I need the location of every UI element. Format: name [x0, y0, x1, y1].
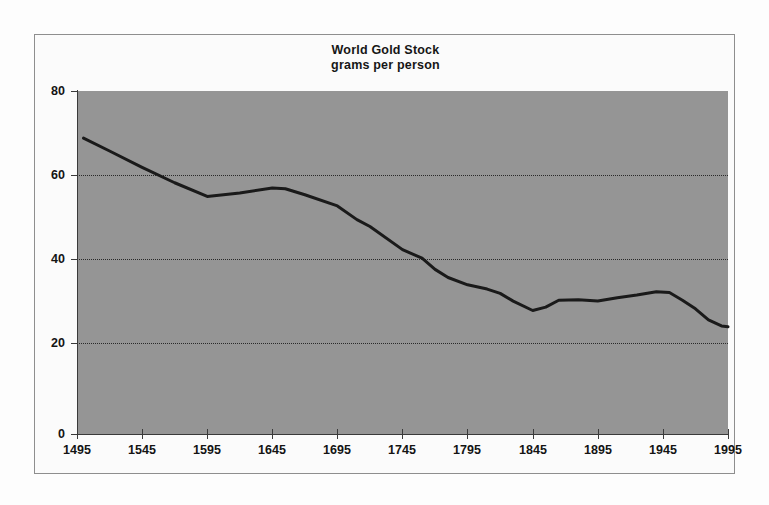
x-tick-label-1945: 1945: [633, 443, 693, 457]
chart-title: World Gold Stock: [35, 43, 736, 58]
y-tick-label-40: 40: [35, 252, 65, 266]
chart-title-block: World Gold Stock grams per person: [35, 43, 736, 74]
series-polyline-world-gold-stock: [84, 138, 728, 327]
x-tick-label-1845: 1845: [503, 443, 563, 457]
x-tick-label-1545: 1545: [112, 443, 172, 457]
chart-figure: World Gold Stock grams per person 80 60 …: [0, 0, 769, 505]
chart-subtitle: grams per person: [35, 58, 736, 73]
x-tick-label-1595: 1595: [177, 443, 237, 457]
x-tick-label-1495: 1495: [47, 443, 107, 457]
x-tick-label-1745: 1745: [372, 443, 432, 457]
y-tick-label-0: 0: [35, 427, 65, 441]
x-tick-label-1995: 1995: [698, 443, 758, 457]
x-tick-label-1645: 1645: [242, 443, 302, 457]
x-tick-mark-1995: [728, 429, 729, 439]
x-tick-label-1695: 1695: [307, 443, 367, 457]
y-tick-label-80: 80: [35, 84, 65, 98]
x-tick-label-1795: 1795: [437, 443, 497, 457]
series-line-chart: [77, 91, 728, 434]
x-axis-line: [77, 434, 729, 435]
y-tick-label-20: 20: [35, 336, 65, 350]
y-tick-label-60: 60: [35, 168, 65, 182]
x-tick-label-1895: 1895: [568, 443, 628, 457]
chart-frame: World Gold Stock grams per person 80 60 …: [34, 34, 735, 474]
